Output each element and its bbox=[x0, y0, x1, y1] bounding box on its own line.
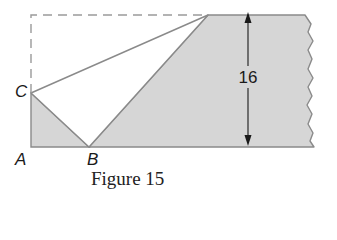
figure-caption: Figure 15 bbox=[0, 168, 337, 190]
label-A: A bbox=[14, 150, 26, 169]
dimension-label: 16 bbox=[239, 68, 258, 87]
label-B: B bbox=[87, 150, 98, 169]
label-C: C bbox=[15, 82, 28, 101]
